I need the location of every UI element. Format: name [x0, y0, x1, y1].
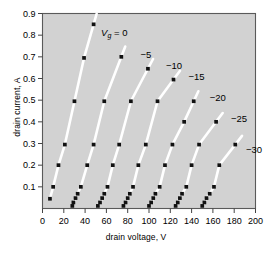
data-point-marker — [176, 201, 180, 205]
x-tick-label: 40 — [80, 216, 90, 226]
data-point-marker — [106, 185, 110, 189]
curve-label: −15 — [188, 71, 204, 82]
data-point-marker — [100, 196, 104, 200]
data-point-marker — [171, 143, 175, 147]
x-axis-title: drain voltage, V — [0, 232, 272, 242]
data-point-marker — [72, 201, 76, 205]
data-point-marker — [111, 163, 115, 167]
data-point-marker — [178, 196, 182, 200]
data-point-marker — [122, 204, 126, 208]
data-point-marker — [128, 192, 132, 196]
data-point-marker — [96, 204, 100, 208]
data-point-marker — [192, 99, 196, 103]
data-point-marker — [137, 163, 141, 167]
x-tick-label: 180 — [227, 216, 242, 226]
y-tick-label: 0.6 — [23, 74, 36, 84]
data-point-marker — [74, 196, 78, 200]
curve-label: −30 — [246, 144, 262, 155]
data-point-marker — [124, 201, 128, 205]
data-point-marker — [151, 196, 155, 200]
data-point-marker — [102, 192, 106, 196]
data-point-marker — [85, 163, 89, 167]
data-point-marker — [92, 22, 96, 26]
x-tick-label: 140 — [184, 216, 199, 226]
data-point-marker — [214, 120, 218, 124]
data-point-marker — [76, 192, 80, 196]
data-point-marker — [205, 196, 209, 200]
data-point-marker — [63, 143, 67, 147]
x-tick-label: 120 — [163, 216, 178, 226]
data-point-marker — [200, 204, 204, 208]
x-tick-label: 160 — [205, 216, 220, 226]
data-point-marker — [144, 143, 148, 147]
y-tick-label: 0.5 — [23, 95, 36, 105]
x-tick-label: 20 — [59, 216, 69, 226]
data-point-marker — [147, 204, 151, 208]
x-tick-label: 100 — [141, 216, 156, 226]
data-point-marker — [51, 185, 55, 189]
data-point-marker — [79, 185, 83, 189]
x-tick-label: 80 — [123, 216, 133, 226]
data-point-marker — [172, 78, 176, 82]
data-point-marker — [70, 204, 74, 208]
data-point-marker — [146, 67, 150, 71]
plot-area — [43, 14, 256, 209]
data-point-marker — [212, 185, 216, 189]
data-point-marker — [117, 143, 121, 147]
data-point-marker — [182, 120, 186, 124]
x-tick-label: 0 — [40, 216, 45, 226]
data-point-marker — [92, 143, 96, 147]
data-point-marker — [126, 196, 130, 200]
data-point-marker — [184, 185, 188, 189]
curve-label: −5 — [140, 49, 151, 60]
y-tick-label: 0.3 — [23, 139, 36, 149]
data-point-marker — [163, 163, 167, 167]
data-point-marker — [149, 201, 153, 205]
y-tick-label: 0.4 — [23, 117, 36, 127]
data-point-marker — [190, 163, 194, 167]
data-point-marker — [233, 143, 237, 147]
y-tick-label: 0.8 — [23, 30, 36, 40]
data-point-marker — [98, 201, 102, 205]
chart-figure: Vg = 0−5−10−15−20−25−30 0204060801001201… — [0, 0, 272, 254]
y-tick-label: 0.1 — [23, 182, 36, 192]
data-point-marker — [180, 192, 184, 196]
y-axis-title: drain current, A — [12, 77, 22, 136]
x-tick-label: 200 — [248, 216, 263, 226]
curve-label: −25 — [231, 113, 247, 124]
y-tick-label: 0.9 — [23, 9, 36, 19]
data-point-marker — [174, 204, 178, 208]
data-point-marker — [158, 185, 162, 189]
y-tick-label: 0.7 — [23, 52, 36, 62]
data-point-marker — [156, 99, 160, 103]
data-point-marker — [203, 201, 207, 205]
data-point-marker — [197, 143, 201, 147]
data-point-marker — [119, 55, 123, 59]
y-tick-label: 0.2 — [23, 160, 36, 170]
curve-label: −10 — [166, 60, 182, 71]
data-point-marker — [208, 192, 212, 196]
data-point-marker — [102, 99, 106, 103]
data-point-marker — [82, 56, 86, 60]
data-point-marker — [217, 163, 221, 167]
data-point-marker — [131, 185, 135, 189]
data-point-marker — [73, 99, 77, 103]
curve-label: −20 — [210, 92, 226, 103]
drain-characteristics-plot: Vg = 0−5−10−15−20−25−30 0204060801001201… — [0, 0, 272, 254]
x-tick-label: 60 — [101, 216, 111, 226]
data-point-marker — [48, 197, 52, 201]
data-point-marker — [154, 192, 158, 196]
data-point-marker — [129, 99, 133, 103]
data-point-marker — [57, 163, 61, 167]
y-axis-title-wrapper: drain current, A — [6, 7, 24, 207]
